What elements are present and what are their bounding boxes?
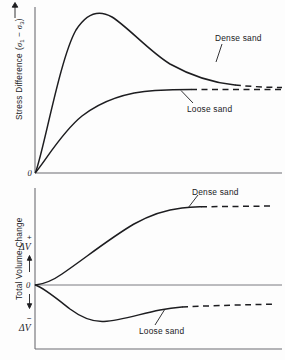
upper-y-axis-minus: − [15, 29, 24, 39]
figure-canvas: 0 Dense sand Loose sand Stress Differenc… [0, 0, 285, 360]
lower-y-axis-title-text: Total Volume Change [15, 217, 24, 300]
upper-y-axis-title-text: Stress Difference [15, 53, 24, 120]
figure-root: 0 Dense sand Loose sand Stress Differenc… [0, 0, 285, 360]
upper-dense-sand-label: Dense sand [215, 33, 262, 43]
lower-dense-sand-label: Dense sand [192, 187, 239, 197]
upper-loose-sand-leader [181, 91, 193, 104]
upper-loose-sand-curve [36, 90, 192, 173]
lower-loose-sand-label: Loose sand [139, 326, 184, 336]
upper-origin-label: 0 [28, 168, 33, 178]
lower-dense-sand-curve [36, 207, 202, 285]
lower-panel: Dense sand Loose sand + ΔV 0 − ΔV [15, 187, 282, 349]
upper-y-axis-paren-close: ) [15, 18, 24, 21]
upper-dense-sand-leader [216, 44, 222, 62]
lower-up-arrow-icon [27, 256, 31, 273]
upper-dense-sand-curve-dashed [235, 85, 282, 88]
lower-down-arrow-icon [27, 294, 31, 309]
lower-loose-sand-curve [36, 285, 183, 322]
upper-y-axis-arrow-icon [12, 3, 18, 19]
lower-y-axis-title: Total Volume Change [15, 217, 24, 300]
lower-origin-label: 0 [26, 280, 31, 290]
lower-delta-v-negative: ΔV [18, 322, 32, 333]
lower-dense-sand-curve-dashed [201, 206, 272, 207]
svg-text:Stress Difference(σ1 − σ3): Stress Difference(σ1 − σ3) [15, 18, 25, 120]
lower-loose-sand-curve-dashed [182, 304, 272, 307]
upper-y-axis-title: Stress Difference(σ1 − σ3) [15, 18, 25, 120]
upper-loose-sand-label: Loose sand [187, 104, 232, 114]
upper-panel: 0 Dense sand Loose sand Stress Differenc… [12, 3, 282, 179]
